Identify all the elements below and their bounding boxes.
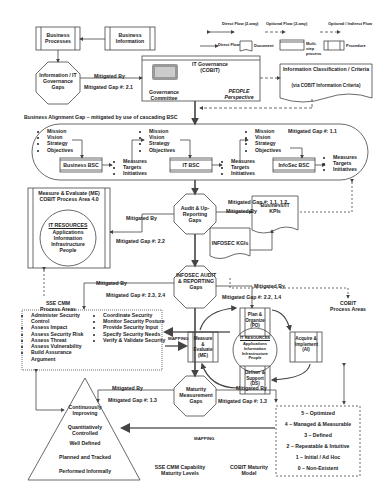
governance-committee-icon — [152, 64, 178, 80]
legend-optional-flow-2way: Optional Flow (2-way) — [266, 22, 307, 27]
mitigated-gap-2-2: Mitigated Gap #: 2.2 — [116, 238, 165, 244]
acquire-implement-ai: Acquire & Implement (AI) — [295, 336, 317, 353]
resource-people: People — [44, 247, 92, 253]
infosec-audit-reporting-gaps: INFOSEC AUDIT & REPORTING Gaps — [174, 272, 218, 291]
it-governance-cobit: IT Governance (COBIT) — [190, 61, 230, 73]
bsc2-top-list: MissionVisionStrategyObjectives — [142, 128, 175, 153]
infosec-bsc: InfoSec BSC — [273, 162, 315, 168]
cobit-level-2: 2 – Repeatable & Intuitive — [276, 443, 360, 449]
cycle-resources: Applications Information Infrastructure … — [238, 342, 272, 361]
cobit-process-areas: COBIT Process Areas — [330, 300, 366, 312]
cobit-level-5: 5 – Optimized — [276, 410, 360, 416]
pyramid-level-planned-tracked: Planned and Tracked — [40, 454, 130, 460]
maturity-measurement-gaps: Maturity Measurement Gaps — [175, 386, 217, 405]
via-cobit-info-criteria: (via COBIT Information Criteria) — [280, 83, 372, 89]
people-perspective: PEOPLE Perspective — [220, 88, 258, 100]
mitigated-gap-2-1: Mitigated Gap #: 2.1 — [84, 84, 133, 90]
pyramid-level-performed-informally: Performed Informally — [40, 468, 130, 474]
business-alignment-gap: Business Alignment Gap – mitigated by us… — [24, 114, 177, 120]
mapping-label-3: MAPPING — [194, 436, 215, 441]
mapping-label-1: MAPPING — [168, 336, 189, 341]
bsc1-top-list: MissionVisionStrategyObjectives — [40, 128, 73, 153]
business-bsc: Business BSC — [60, 162, 102, 168]
information-classification: Information Classification / Criteria — [282, 66, 370, 72]
legend-multistep: Multi-step process — [306, 42, 322, 56]
business-processes: Business Processes — [42, 32, 74, 44]
legend-document: Document — [254, 44, 274, 49]
sse-cmm-maturity-levels: SSE CMM Capability Maturity Levels — [150, 464, 210, 476]
business-information: Business Information — [111, 32, 149, 44]
measure-evaluate-me: Measure & Evaluate (ME) — [193, 336, 213, 358]
legend-optional-indirect: Optional / Indirect Flow — [328, 22, 372, 27]
mitigated-gap-1-1: Mitigated Gap #: 1.1 — [288, 128, 337, 134]
mitigated-by-cobit-maturity: Mitigated By — [236, 385, 267, 391]
business-it-kpis: Business/IT KPIs — [254, 202, 296, 214]
me-box-title: Measure & Evaluate (ME) COBIT Process Ar… — [34, 190, 104, 202]
bsc1-bottom-list: MeasuresTargetsInitiatives — [116, 158, 147, 177]
mitigated-gap-1-3-right: Mitigated Gap #: 1.3 — [218, 398, 267, 404]
bsc3-top-list: MissionVisionStrategyObjectives — [248, 128, 281, 153]
cobit-maturity-model: COBIT Maturity Model — [226, 464, 272, 476]
info-it-governance-gaps: Information / IT Governance Gaps — [37, 72, 79, 91]
mitigated-by-cobit: Mitigated By — [254, 283, 285, 289]
sse-right-list: Coordinate SecurityMonitor Security Post… — [96, 312, 169, 343]
cobit-level-1: 1 – Initial / Ad Hoc — [276, 454, 360, 460]
cobit-level-3: 3 – Defined — [276, 432, 360, 438]
sse-left-list: Administer Security ControlAssess Impact… — [24, 312, 91, 362]
it-resources-title: IT RESOURCES — [44, 222, 92, 228]
mitigated-by-sse: Mitigated By — [96, 280, 127, 286]
mitigated-gap-2-2-1-4: Mitigated Gap #: 2.2, 1.4 — [222, 294, 281, 300]
legend-procedure: Procedure — [346, 44, 366, 49]
bsc3-bottom-list: MeasuresTargetsInitiatives — [326, 154, 357, 173]
mitigated-by-pyramid: Mitigated By — [112, 385, 143, 391]
mitigated-by-me: Mitigated By — [126, 215, 157, 221]
cobit-level-4: 4 – Managed & Measurable — [276, 421, 360, 427]
governance-committee: Governance Committee — [144, 89, 184, 101]
cobit-level-0: 0 – Non-Existent — [276, 465, 360, 471]
pyramid-level-continuously-improving: Continuously Improving — [60, 404, 110, 416]
legend-direct-flow-2way: Direct Flow (2-way) — [222, 22, 258, 27]
sse-cmm-process-areas: SSE CMM Process Areas — [36, 300, 80, 312]
mitigated-by-kpi: Mitigated By — [226, 208, 257, 214]
mitigated-gap-1-3-left: Mitigated Gap #: 1.3 — [108, 397, 157, 403]
legend-direct-flow: Direct Flow — [218, 43, 240, 48]
pyramid-level-quantitatively-controlled: Quantitatively Controlled — [60, 424, 110, 436]
it-bsc: IT BSC — [170, 162, 212, 168]
mitigated-by-label: Mitigated By — [94, 73, 125, 79]
bsc2-bottom-list: MeasuresTargetsInitiatives — [224, 158, 255, 177]
plan-organize-po: Plan & Organize (PO) — [245, 312, 265, 329]
audit-up-reporting-gaps: Audit & Up-Reporting Gaps — [176, 205, 214, 224]
pyramid-level-well-defined: Well Defined — [50, 440, 120, 446]
mitigated-gap-2-3-2-4: Mitigated Gap #: 2.3, 2.4 — [106, 292, 165, 298]
infosec-kgis: INFOSEC KGIs — [210, 240, 250, 246]
